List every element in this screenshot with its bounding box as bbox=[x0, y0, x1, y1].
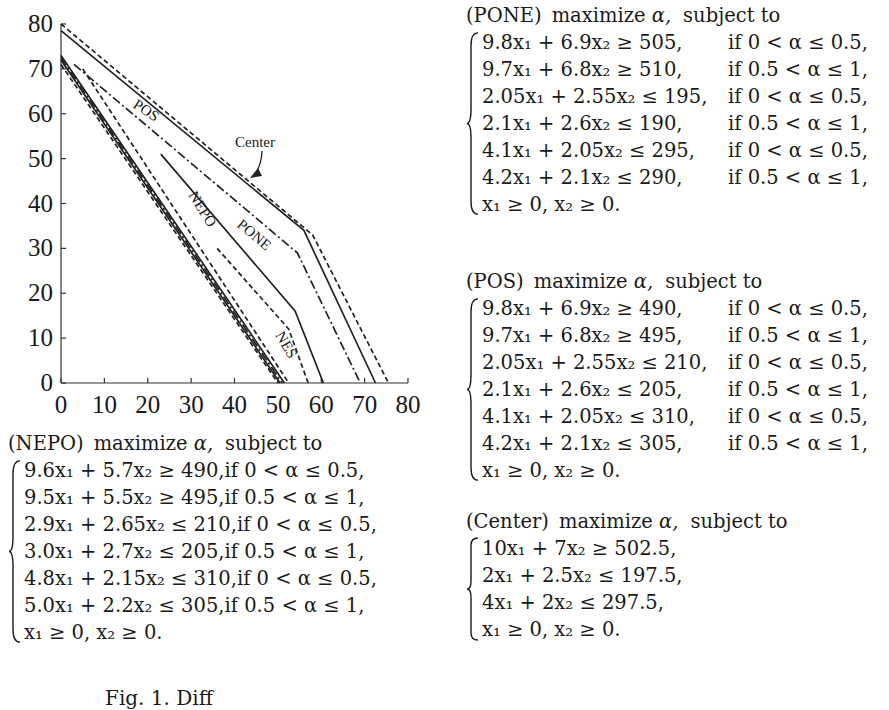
constraint-row: 9.8x₁ + 6.9x₂ ≥ 505,if 0 < α ≤ 0.5, bbox=[482, 29, 868, 56]
constraint-row: 4.8x₁ + 2.15x₂ ≤ 310,if 0 < α ≤ 0.5, bbox=[24, 565, 377, 592]
alpha-condition: if 0.5 < α ≤ 1, bbox=[225, 592, 365, 619]
constraint-expression: 2.9x₁ + 2.65x₂ ≤ 210, bbox=[24, 511, 237, 538]
constraint-expression: 2.05x₁ + 2.55x₂ ≤ 210, bbox=[482, 349, 728, 376]
label-nepo: NEPO bbox=[185, 188, 219, 230]
constraint-row: 2.9x₁ + 2.65x₂ ≤ 210,if 0 < α ≤ 0.5, bbox=[24, 511, 377, 538]
label-nes: NES bbox=[272, 329, 300, 362]
x-tick-label: 20 bbox=[135, 391, 160, 418]
objective-keyword: maximize bbox=[559, 510, 653, 533]
constraint-row: 2.05x₁ + 2.55x₂ ≤ 210,if 0 < α ≤ 0.5, bbox=[482, 349, 868, 376]
alpha-condition: if 0 < α ≤ 0.5, bbox=[237, 511, 377, 538]
constraint-row: x₁ ≥ 0, x₂ ≥ 0. bbox=[482, 616, 788, 643]
model-pone-heading: (PONE)maximize α,subject to bbox=[466, 2, 868, 29]
x-tick-label: 40 bbox=[222, 391, 247, 418]
model-name: (NEPO) bbox=[8, 432, 84, 455]
y-tick-label: 20 bbox=[28, 279, 53, 306]
x-tick-label: 0 bbox=[55, 391, 68, 418]
y-tick-label: 30 bbox=[28, 234, 53, 261]
constraint-row: 2.1x₁ + 2.6x₂ ≤ 205,if 0.5 < α ≤ 1, bbox=[482, 376, 868, 403]
constraint-system: 9.6x₁ + 5.7x₂ ≥ 490,if 0 < α ≤ 0.5,9.5x₁… bbox=[8, 457, 377, 646]
model-center: (Center)maximize α,subject to 10x₁ + 7x₂… bbox=[466, 508, 788, 643]
alpha-condition: if 0 < α ≤ 0.5, bbox=[728, 137, 868, 164]
arrowhead-icon bbox=[250, 168, 262, 178]
constraint-expression: 9.8x₁ + 6.9x₂ ≥ 490, bbox=[482, 295, 728, 322]
constraint-expression: x₁ ≥ 0, x₂ ≥ 0. bbox=[482, 457, 728, 484]
x-tick-label: 70 bbox=[352, 391, 377, 418]
model-center-heading: (Center)maximize α,subject to bbox=[466, 508, 788, 535]
alpha-condition: if 0 < α ≤ 0.5, bbox=[225, 457, 365, 484]
alpha-condition: if 0.5 < α ≤ 1, bbox=[728, 56, 868, 83]
model-name: (PONE) bbox=[466, 4, 542, 27]
alpha-condition: if 0 < α ≤ 0.5, bbox=[728, 29, 868, 56]
model-pone: (PONE)maximize α,subject to 9.8x₁ + 6.9x… bbox=[466, 2, 868, 218]
y-tick-label: 70 bbox=[28, 55, 53, 82]
y-tick-label: 60 bbox=[28, 100, 53, 127]
constraint-expression: 2.1x₁ + 2.6x₂ ≤ 190, bbox=[482, 110, 728, 137]
constraint-row: 4.1x₁ + 2.05x₂ ≤ 295,if 0 < α ≤ 0.5, bbox=[482, 137, 868, 164]
objective-variable: α, bbox=[194, 432, 213, 455]
axes bbox=[61, 24, 408, 383]
constraint-expression: 9.6x₁ + 5.7x₂ ≥ 490, bbox=[24, 457, 225, 484]
model-nepo: (NEPO)maximize α,subject to 9.6x₁ + 5.7x… bbox=[8, 430, 377, 646]
constraint-expression: 4.1x₁ + 2.05x₂ ≤ 295, bbox=[482, 137, 728, 164]
alpha-condition: if 0.5 < α ≤ 1, bbox=[225, 484, 365, 511]
constraint-row: 4x₁ + 2x₂ ≤ 297.5, bbox=[482, 589, 788, 616]
alpha-condition: if 0.5 < α ≤ 1, bbox=[225, 538, 365, 565]
label-center: Center bbox=[235, 134, 275, 150]
constraint-expression: 2x₁ + 2.5x₂ ≤ 197.5, bbox=[482, 562, 683, 589]
feasible-region-chart: 0102030405060708001020304050607080 POSCe… bbox=[0, 0, 430, 420]
figure-caption: Fig. 1. Diff bbox=[105, 686, 213, 710]
constraint-expression: 9.8x₁ + 6.9x₂ ≥ 505, bbox=[482, 29, 728, 56]
constraint-row: 9.8x₁ + 6.9x₂ ≥ 490,if 0 < α ≤ 0.5, bbox=[482, 295, 868, 322]
constraint-expression: 4x₁ + 2x₂ ≤ 297.5, bbox=[482, 589, 664, 616]
subject-to: subject to bbox=[225, 432, 322, 455]
constraint-row: 4.2x₁ + 2.1x₂ ≤ 305,if 0.5 < α ≤ 1, bbox=[482, 430, 868, 457]
constraint-row: 10x₁ + 7x₂ ≥ 502.5, bbox=[482, 535, 788, 562]
series-line bbox=[61, 55, 284, 383]
objective-variable: α, bbox=[652, 4, 671, 27]
alpha-condition: if 0 < α ≤ 0.5, bbox=[728, 83, 868, 110]
constraint-system: 9.8x₁ + 6.9x₂ ≥ 490,if 0 < α ≤ 0.5,9.7x₁… bbox=[466, 295, 868, 484]
x-tick-label: 60 bbox=[309, 391, 334, 418]
series-line bbox=[217, 248, 308, 383]
x-tick-label: 10 bbox=[92, 391, 117, 418]
alpha-condition: if 0 < α ≤ 0.5, bbox=[728, 403, 868, 430]
constraint-row: 3.0x₁ + 2.7x₂ ≤ 205,if 0.5 < α ≤ 1, bbox=[24, 538, 377, 565]
constraint-expression: 9.7x₁ + 6.8x₂ ≥ 510, bbox=[482, 56, 728, 83]
alpha-condition: if 0 < α ≤ 0.5, bbox=[728, 349, 868, 376]
x-tick-label: 50 bbox=[265, 391, 290, 418]
constraint-row: 2.1x₁ + 2.6x₂ ≤ 190,if 0.5 < α ≤ 1, bbox=[482, 110, 868, 137]
subject-to: subject to bbox=[690, 510, 787, 533]
y-tick-label: 50 bbox=[28, 145, 53, 172]
constraint-expression: x₁ ≥ 0, x₂ ≥ 0. bbox=[482, 616, 621, 643]
model-pos-heading: (POS)maximize α,subject to bbox=[466, 268, 868, 295]
alpha-condition: if 0 < α ≤ 0.5, bbox=[237, 565, 377, 592]
constraint-expression: x₁ ≥ 0, x₂ ≥ 0. bbox=[482, 191, 728, 218]
constraint-system: 9.8x₁ + 6.9x₂ ≥ 505,if 0 < α ≤ 0.5,9.7x₁… bbox=[466, 29, 868, 218]
constraint-expression: 4.8x₁ + 2.15x₂ ≤ 310, bbox=[24, 565, 237, 592]
objective-variable: α, bbox=[634, 270, 653, 293]
alpha-condition: if 0.5 < α ≤ 1, bbox=[728, 164, 868, 191]
alpha-condition: if 0 < α ≤ 0.5, bbox=[728, 295, 868, 322]
constraint-row: 9.7x₁ + 6.8x₂ ≥ 510,if 0.5 < α ≤ 1, bbox=[482, 56, 868, 83]
model-nepo-heading: (NEPO)maximize α,subject to bbox=[8, 430, 377, 457]
constraint-expression: 2.05x₁ + 2.55x₂ ≤ 195, bbox=[482, 83, 728, 110]
objective-variable: α, bbox=[659, 510, 678, 533]
objective-keyword: maximize bbox=[94, 432, 188, 455]
left-brace-icon bbox=[8, 459, 22, 644]
alpha-condition: if 0.5 < α ≤ 1, bbox=[728, 322, 868, 349]
series-line bbox=[74, 64, 360, 383]
constraint-expression: 2.1x₁ + 2.6x₂ ≤ 205, bbox=[482, 376, 728, 403]
constraint-expression: x₁ ≥ 0, x₂ ≥ 0. bbox=[24, 619, 214, 646]
constraint-row: x₁ ≥ 0, x₂ ≥ 0. bbox=[482, 191, 868, 218]
constraint-expression: 5.0x₁ + 2.2x₂ ≤ 305, bbox=[24, 592, 225, 619]
chart-svg: 0102030405060708001020304050607080 POSCe… bbox=[0, 0, 430, 420]
constraint-row: 9.6x₁ + 5.7x₂ ≥ 490,if 0 < α ≤ 0.5, bbox=[24, 457, 377, 484]
constraint-row: 5.0x₁ + 2.2x₂ ≤ 305,if 0.5 < α ≤ 1, bbox=[24, 592, 377, 619]
left-brace-icon bbox=[466, 537, 480, 641]
series-line bbox=[61, 24, 389, 383]
y-tick-label: 80 bbox=[28, 10, 53, 37]
left-brace-icon bbox=[466, 31, 480, 216]
chart-series bbox=[61, 24, 389, 383]
constraint-expression: 10x₁ + 7x₂ ≥ 502.5, bbox=[482, 535, 676, 562]
